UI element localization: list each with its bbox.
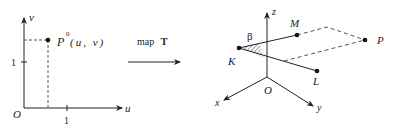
point-p-label-3d: P [376,34,384,46]
point-k [237,46,242,51]
angle-beta-label: β [247,30,253,42]
xyz-space: z x y O K M L P β [214,6,384,113]
u-tick-label: 1 [64,115,69,126]
dashed-mp [297,27,365,40]
dashed-lp [284,40,365,61]
origin-label: O [13,108,21,120]
map-arrow-group: map T [128,36,180,62]
point-p [363,38,368,43]
x-axis-label: x [214,97,220,108]
uv-plane: v u O 1 1 P 0 (u, v) [11,11,131,126]
origin-label-3d: O [264,84,272,96]
point-p-label: P [56,35,65,49]
v-axis-label: v [29,11,34,23]
point-p-coords: (u, v) [70,36,105,49]
v-tick-label: 1 [11,57,16,68]
x-axis [224,77,267,100]
point-m [295,33,300,38]
point-p0 [46,38,51,43]
point-k-label: K [227,55,236,67]
u-axis-label: u [125,102,131,114]
y-axis [267,77,313,106]
z-axis-label: z [271,6,276,17]
point-l [315,69,320,74]
point-m-label: M [289,17,300,29]
y-axis-label: y [316,102,322,113]
mapping-diagram: v u O 1 1 P 0 (u, v) map T z x y O K [0,0,397,128]
map-label: map T [137,36,168,47]
point-l-label: L [312,75,319,87]
segment-kl [239,48,317,71]
